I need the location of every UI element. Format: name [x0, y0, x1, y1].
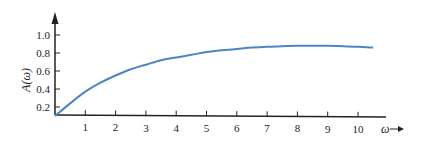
- x-tick-label: 3: [143, 122, 149, 134]
- x-tick-label: 4: [173, 122, 179, 134]
- x-tick-label: 9: [325, 123, 331, 135]
- x-axis-arrow-icon: [390, 126, 404, 132]
- y-tick-label: 1.0: [36, 29, 50, 41]
- y-tick-label: 0.2: [36, 101, 50, 113]
- x-tick-label: 5: [204, 122, 210, 134]
- x-tick-label: 1: [83, 121, 89, 133]
- x-axis-title: ω: [381, 122, 389, 136]
- y-axis-ticks: 0.20.40.60.81.0: [36, 29, 60, 113]
- x-tick-label: 8: [295, 122, 301, 134]
- x-axis-line: [55, 115, 386, 117]
- y-tick-label: 0.6: [36, 65, 50, 77]
- data-line: [55, 46, 373, 116]
- y-axis-title: A(ω): [19, 68, 33, 93]
- x-tick-label: 2: [113, 121, 119, 133]
- y-axis-arrow-icon: [52, 12, 59, 24]
- x-axis-ticks: 12345678910: [83, 110, 364, 135]
- x-tick-label: 10: [353, 123, 365, 135]
- y-tick-label: 0.4: [36, 83, 50, 95]
- axes: [52, 12, 387, 117]
- y-tick-label: 0.8: [36, 47, 50, 59]
- x-tick-label: 7: [264, 122, 270, 134]
- chart: 12345678910 0.20.40.60.81.0 A(ω) ω: [0, 0, 421, 141]
- x-tick-label: 6: [234, 122, 240, 134]
